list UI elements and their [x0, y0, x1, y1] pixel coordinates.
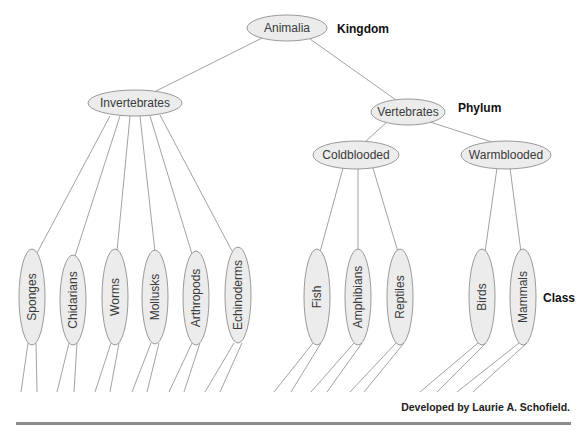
node-vertebrates-label: Vertebrates: [377, 105, 438, 119]
node-coldblooded: Coldblooded: [313, 141, 399, 169]
node-animalia-label: Animalia: [264, 21, 310, 35]
node-invertebrates-label: Invertebrates: [100, 96, 170, 110]
rank-label-phylum: Phylum: [458, 101, 501, 115]
credit-line: Developed by Laurie A. Schofield.: [401, 401, 570, 413]
edge-animalia-invertebrates: [156, 38, 262, 91]
rank-label-class: Class: [543, 291, 575, 305]
node-animalia: Animalia: [247, 15, 327, 41]
node-worms-label: Worms: [108, 278, 122, 316]
node-coldblooded-label: Coldblooded: [322, 148, 389, 162]
node-invertebrates: Invertebrates: [88, 90, 182, 116]
node-sponges-label: Sponges: [25, 273, 39, 320]
edge-animalia-vertebrates: [310, 39, 396, 100]
footer-divider: [16, 422, 571, 425]
edge-coldblooded-fish: [320, 168, 343, 252]
node-echinoderms-label: Echinoderms: [231, 260, 245, 330]
rank-label-kingdom: Kingdom: [337, 22, 389, 36]
node-amphibians-label: Amphibians: [351, 266, 365, 329]
edges: [21, 38, 527, 392]
edge-coldblooded-reptiles: [373, 168, 398, 252]
classification-tree: Animalia Kingdom Invertebrates Vertebrat…: [0, 0, 587, 431]
node-worms: Worms: [102, 249, 128, 345]
node-reptiles: Reptiles: [387, 249, 413, 345]
node-warmblooded-label: Warmblooded: [469, 148, 543, 162]
node-chidarians: Chidarians: [60, 255, 86, 345]
edge-invertebrates-chidarians: [75, 116, 120, 256]
node-arthropods: Arthropods: [183, 251, 209, 345]
edge-warmblooded-birds: [485, 168, 497, 252]
edge-invertebrates-worms: [117, 116, 130, 251]
node-mollusks-label: Mollusks: [148, 274, 162, 321]
edge-warmblooded-mammals: [510, 168, 521, 252]
edge-vertebrates-coldblooded: [366, 122, 387, 141]
node-birds: Birds: [469, 249, 495, 345]
node-mammals: Mammals: [510, 249, 536, 345]
node-mammals-label: Mammals: [516, 271, 530, 323]
node-mollusks: Mollusks: [142, 250, 168, 344]
node-sponges: Sponges: [19, 249, 45, 345]
node-arthropods-label: Arthropods: [189, 269, 203, 328]
descendant-lines: [21, 343, 527, 392]
node-echinoderms: Echinoderms: [225, 247, 251, 343]
node-warmblooded: Warmblooded: [461, 141, 551, 169]
edge-vertebrates-warmblooded: [430, 122, 492, 142]
node-fish: Fish: [304, 249, 330, 345]
node-reptiles-label: Reptiles: [393, 275, 407, 318]
node-vertebrates: Vertebrates: [371, 99, 445, 125]
node-chidarians-label: Chidarians: [66, 271, 80, 328]
edge-invertebrates-sponges: [37, 116, 110, 253]
node-birds-label: Birds: [475, 283, 489, 310]
edge-invertebrates-mollusks: [140, 116, 155, 252]
edge-invertebrates-arthropods: [150, 116, 192, 254]
node-amphibians: Amphibians: [345, 249, 371, 345]
node-fish-label: Fish: [310, 286, 324, 309]
